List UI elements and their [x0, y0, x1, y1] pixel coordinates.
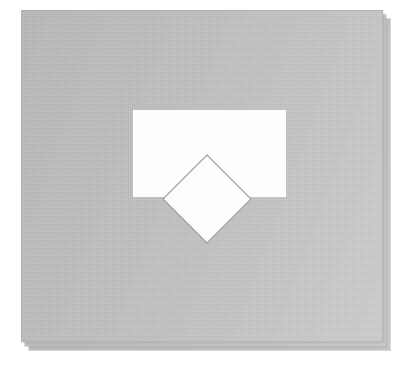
diamond-svg	[161, 153, 253, 245]
stack-drop-shadow	[30, 347, 388, 351]
shape-diamond[interactable]	[161, 153, 253, 245]
canvas-stage	[0, 0, 401, 367]
diamond-polygon	[163, 155, 251, 243]
sheet-panel-main[interactable]	[21, 10, 383, 342]
